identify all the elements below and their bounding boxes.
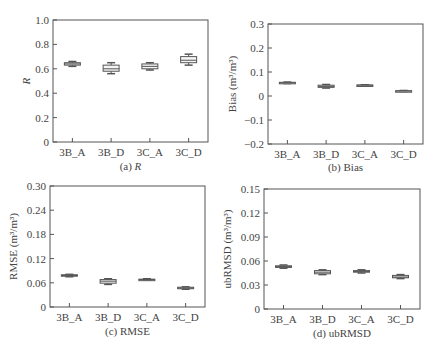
x-tick-label: 3C_D <box>387 313 413 325</box>
x-tick-label: 3B_D <box>98 146 124 158</box>
y-tick-label: 0 <box>255 303 261 315</box>
figure: 00.20.40.60.81.0R3B_A3B_D3C_A3C_D(a) R −… <box>0 0 437 359</box>
y-tick-label: 0.15 <box>241 183 261 195</box>
y-tick-label: 0.6 <box>35 63 49 75</box>
panel-bias: −0.2−0.100.10.20.3Bias (m³/m³)3B_A3B_D3C… <box>226 18 423 174</box>
box-3b-a <box>276 265 292 268</box>
y-axis-title: ubRMSD (m³/m³) <box>221 209 234 288</box>
box-3b-a <box>61 274 77 276</box>
x-tick-label: 3B_A <box>56 311 82 323</box>
box-3b-d <box>103 63 119 74</box>
plot-frame <box>264 189 420 309</box>
y-tick-label: 1.0 <box>35 14 49 26</box>
y-tick-label: 0.12 <box>27 253 46 265</box>
y-tick-label: 0.2 <box>35 112 49 124</box>
panel-caption: (d) ubRMSD <box>313 327 371 340</box>
box-3c-a <box>142 63 158 70</box>
y-tick-label: 0.18 <box>27 228 47 240</box>
y-tick-label: 0.1 <box>250 66 264 78</box>
x-tick-label: 3C_D <box>175 146 201 158</box>
y-tick-label: 0 <box>41 301 47 313</box>
x-tick-label: 3B_D <box>313 148 339 160</box>
box-3c-a <box>354 270 370 273</box>
y-tick-label: 0 <box>259 90 265 102</box>
box-3b-d <box>318 84 334 88</box>
box-3c-a <box>139 279 155 281</box>
panel-caption: (c) RMSE <box>105 325 150 338</box>
x-tick-label: 3B_A <box>270 313 296 325</box>
box-3b-a <box>279 82 295 84</box>
x-tick-label: 3C_A <box>348 313 374 325</box>
y-tick-label: 0.4 <box>35 87 49 99</box>
x-tick-label: 3B_D <box>309 313 335 325</box>
y-tick-label: 0.12 <box>241 207 260 219</box>
x-tick-label: 3C_A <box>352 148 378 160</box>
box-3c-d <box>396 90 412 92</box>
y-tick-label: 0.06 <box>27 277 47 289</box>
box-3b-d <box>100 279 116 285</box>
x-tick-label: 3B_D <box>95 311 121 323</box>
plot-frame <box>53 20 208 142</box>
y-tick-label: −0.1 <box>244 114 264 126</box>
box-3c-d <box>181 54 197 65</box>
y-axis-title: RMSE (m³/m³) <box>7 213 20 280</box>
y-tick-label: −0.2 <box>244 138 264 150</box>
x-tick-label: 3C_A <box>137 146 163 158</box>
y-tick-label: 0.09 <box>241 231 261 243</box>
box-3b-a <box>64 61 80 66</box>
panel-caption: (a) R <box>120 160 142 173</box>
y-axis-title: R <box>20 77 32 85</box>
y-tick-label: 0 <box>44 136 50 148</box>
y-tick-label: 0.2 <box>250 42 264 54</box>
box-3c-a <box>357 85 373 87</box>
panel-ubrmsd: 00.030.060.090.120.15ubRMSD (m³/m³)3B_A3… <box>221 183 420 340</box>
x-tick-label: 3C_A <box>134 311 160 323</box>
x-tick-label: 3C_D <box>390 148 416 160</box>
y-tick-label: 0.30 <box>27 180 47 192</box>
x-tick-label: 3C_D <box>172 311 198 323</box>
y-tick-label: 0.24 <box>27 204 47 216</box>
y-tick-label: 0.03 <box>241 279 261 291</box>
panel-caption: (b) Bias <box>328 161 363 174</box>
x-tick-label: 3B_A <box>274 148 300 160</box>
y-tick-label: 0.3 <box>250 18 264 30</box>
box-3c-d <box>393 275 409 279</box>
y-axis-title: Bias (m³/m³) <box>226 55 239 112</box>
box-3b-d <box>315 270 331 275</box>
panel-rmse: 00.060.120.180.240.30RMSE (m³/m³)3B_A3B_… <box>7 180 205 338</box>
x-tick-label: 3B_A <box>59 146 85 158</box>
panel-r: 00.20.40.60.81.0R3B_A3B_D3C_A3C_D(a) R <box>20 14 208 173</box>
y-tick-label: 0.8 <box>35 38 49 50</box>
y-tick-label: 0.06 <box>241 255 261 267</box>
box-3c-d <box>178 287 194 289</box>
